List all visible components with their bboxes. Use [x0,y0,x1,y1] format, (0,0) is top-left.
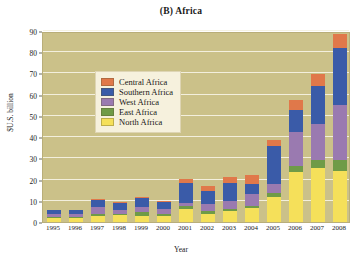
bar-column[interactable] [223,177,237,222]
legend-item[interactable]: East Africa [101,108,173,117]
bar-column[interactable] [69,210,83,222]
bar-column[interactable] [245,175,259,222]
x-tick-label: 1998 [112,224,126,232]
bar-segment [113,203,127,210]
bar-segment [289,172,303,222]
x-tick-label: 2003 [222,224,236,232]
y-tick-label: 10 [30,197,38,206]
bar-series-group [43,33,349,222]
legend: Central AfricaSouthern AfricaWest Africa… [95,71,181,133]
bar-segment [289,132,303,166]
bar-segment [267,184,281,194]
y-axis: 0102030405060708090 [0,32,42,223]
bar-column[interactable] [267,140,281,222]
legend-swatch-icon [101,78,114,86]
bar-column[interactable] [201,186,215,222]
bar-column[interactable] [333,34,347,222]
bar-segment [311,86,325,124]
bar-segment [289,100,303,110]
y-tick-label: 40 [30,134,38,143]
x-axis-label: Year [0,245,362,254]
x-tick-label: 2002 [200,224,214,232]
legend-item[interactable]: Southern Africa [101,88,173,97]
x-tick-label: 1999 [134,224,148,232]
x-tick-label: 2007 [310,224,324,232]
bar-segment [333,160,347,171]
y-tick-label: 70 [30,70,38,79]
legend-item[interactable]: North Africa [101,118,173,127]
x-tick-label: 2000 [156,224,170,232]
legend-item-label: North Africa [119,118,162,127]
bar-segment [135,216,149,222]
bar-segment [157,202,171,209]
bar-segment [223,183,237,201]
bar-segment [201,204,215,211]
y-tick-label: 90 [30,28,38,37]
bar-segment [245,194,259,206]
bar-column[interactable] [157,201,171,222]
bar-column[interactable] [47,210,61,222]
bar-segment [311,124,325,160]
bar-segment [311,74,325,87]
legend-swatch-icon [101,118,114,126]
bar-column[interactable] [311,74,325,223]
bar-column[interactable] [91,199,105,222]
bar-segment [267,146,281,184]
legend-item[interactable]: West Africa [101,98,173,107]
chart-figure: (B) Africa $U.S. billion 010203040506070… [0,0,362,266]
bar-segment [333,105,347,160]
bar-segment [333,48,347,105]
legend-item-label: East Africa [119,108,157,117]
y-tick-label: 0 [33,219,37,228]
bar-segment [311,160,325,167]
y-tick-label: 30 [30,155,38,164]
legend-item-label: Southern Africa [119,88,173,97]
legend-item[interactable]: Central Africa [101,78,173,87]
bar-segment [179,183,193,203]
bar-column[interactable] [135,197,149,222]
y-tick-label: 20 [30,176,38,185]
bar-segment [47,218,61,222]
legend-swatch-icon [101,98,114,106]
gridline [43,30,349,31]
bar-segment [69,218,83,222]
bar-segment [289,110,303,132]
x-tick-label: 2008 [332,224,346,232]
legend-item-label: West Africa [119,98,159,107]
bar-segment [157,216,171,222]
plot-area: Central AfricaSouthern AfricaWest Africa… [42,32,350,223]
y-tick-label: 50 [30,112,38,121]
x-tick-label: 1996 [68,224,82,232]
bar-column[interactable] [113,202,127,222]
bar-segment [245,175,259,183]
bar-segment [135,198,149,208]
legend-swatch-icon [101,108,114,116]
bar-segment [333,34,347,48]
y-tick-label: 80 [30,49,38,58]
bar-segment [91,216,105,222]
bar-segment [223,201,237,209]
bar-segment [91,200,105,207]
x-tick-label: 2005 [266,224,280,232]
x-tick-label: 2001 [178,224,192,232]
legend-swatch-icon [101,88,114,96]
x-tick-label: 1995 [46,224,60,232]
x-tick-label: 2004 [244,224,258,232]
y-tick-label: 60 [30,91,38,100]
bar-segment [201,214,215,222]
x-tick-label: 1997 [90,224,104,232]
bar-segment [245,184,259,195]
bar-segment [333,171,347,222]
bar-column[interactable] [179,179,193,222]
bar-segment [201,191,215,204]
bar-segment [179,209,193,222]
legend-item-label: Central Africa [119,78,167,87]
x-axis: 1995199619971998199920002001200220032004… [42,224,350,240]
bar-segment [267,197,281,222]
bar-segment [311,168,325,222]
bar-segment [245,208,259,222]
chart-title: (B) Africa [0,6,362,16]
bar-column[interactable] [289,100,303,222]
bar-segment [113,215,127,222]
bar-segment [223,211,237,222]
